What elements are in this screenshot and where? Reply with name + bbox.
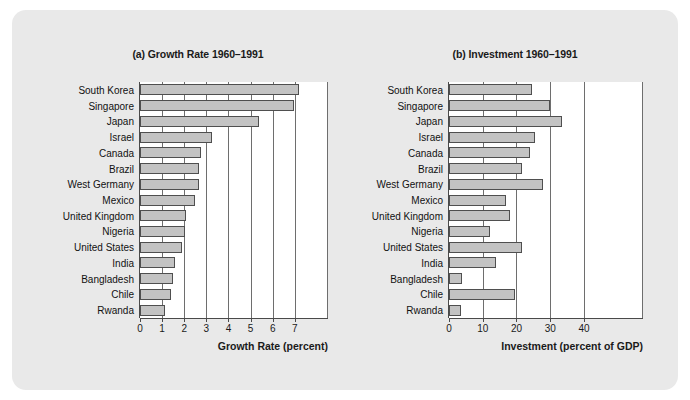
bar xyxy=(449,289,515,300)
x-tick-label: 4 xyxy=(226,323,232,334)
chart-growth-rate: (a) Growth Rate 1960–1991 01234567Growth… xyxy=(20,10,350,390)
x-tick-label: 30 xyxy=(545,323,556,334)
bar xyxy=(449,305,461,316)
x-tick-mark xyxy=(184,318,185,322)
x-tick-mark xyxy=(516,318,517,322)
bar xyxy=(449,242,522,253)
category-label: India xyxy=(112,257,134,268)
x-tick-label: 1 xyxy=(159,323,165,334)
bar xyxy=(140,179,199,190)
category-label: West Germany xyxy=(377,179,444,190)
category-label: Bangladesh xyxy=(390,273,443,284)
category-label: South Korea xyxy=(78,84,134,95)
bar xyxy=(449,163,522,174)
bar xyxy=(140,163,199,174)
bar xyxy=(140,257,175,268)
bar-row xyxy=(140,226,185,237)
category-label: United Kingdom xyxy=(372,210,443,221)
bar xyxy=(140,195,195,206)
x-tick-mark xyxy=(140,318,141,322)
category-label: Chile xyxy=(420,289,443,300)
x-axis-line-investment xyxy=(449,318,643,319)
chart-investment: (b) Investment 1960–1991 010203040Invest… xyxy=(342,10,672,390)
category-label: Mexico xyxy=(411,195,443,206)
bar-row xyxy=(140,210,186,221)
x-tick-mark xyxy=(228,318,229,322)
bar-row xyxy=(449,242,522,253)
gridline xyxy=(273,82,274,318)
x-tick-mark xyxy=(483,318,484,322)
bar-row xyxy=(449,179,543,190)
x-tick-label: 5 xyxy=(248,323,254,334)
x-tick-mark xyxy=(251,318,252,322)
category-label: Nigeria xyxy=(102,226,134,237)
bar xyxy=(140,226,185,237)
x-tick-mark xyxy=(162,318,163,322)
x-tick-label: 0 xyxy=(446,323,452,334)
bar xyxy=(449,273,462,284)
x-tick-mark xyxy=(273,318,274,322)
bar xyxy=(449,147,530,158)
plot-area-investment: 010203040Investment (percent of GDP) xyxy=(448,82,643,318)
x-tick-label: 10 xyxy=(477,323,488,334)
bar-row xyxy=(449,163,522,174)
bar-row xyxy=(140,147,201,158)
bar-row xyxy=(140,116,259,127)
bar-row xyxy=(449,257,496,268)
bar xyxy=(449,226,490,237)
x-tick-label: 3 xyxy=(204,323,210,334)
category-label: South Korea xyxy=(387,84,443,95)
category-label: West Germany xyxy=(68,179,135,190)
bar-row xyxy=(449,84,532,95)
chart-title-growth: (a) Growth Rate 1960–1991 xyxy=(20,48,350,60)
bar xyxy=(449,84,532,95)
bar xyxy=(449,179,543,190)
bar-row xyxy=(449,147,530,158)
category-label: United States xyxy=(383,242,443,253)
bar-row xyxy=(449,116,562,127)
bar-row xyxy=(140,273,173,284)
bar-row xyxy=(140,242,182,253)
category-label: Canada xyxy=(408,147,443,158)
bar-row xyxy=(140,100,294,111)
category-label: Israel xyxy=(110,132,134,143)
bar-row xyxy=(140,163,199,174)
plot-area-growth: 01234567Growth Rate (percent) xyxy=(139,82,328,318)
figure-panel: (a) Growth Rate 1960–1991 01234567Growth… xyxy=(12,10,678,390)
x-tick-label: 0 xyxy=(137,323,143,334)
category-label: United Kingdom xyxy=(63,210,134,221)
x-tick-mark xyxy=(584,318,585,322)
bar xyxy=(140,242,182,253)
category-label: United States xyxy=(74,242,134,253)
bar-row xyxy=(140,195,195,206)
bar xyxy=(140,147,201,158)
bar-row xyxy=(449,195,506,206)
category-label: Japan xyxy=(416,116,443,127)
bar xyxy=(140,84,299,95)
bar-row xyxy=(449,210,510,221)
category-label: Singapore xyxy=(88,100,134,111)
x-tick-label: 20 xyxy=(511,323,522,334)
category-label: Rwanda xyxy=(406,305,443,316)
bar xyxy=(140,210,186,221)
bar-row xyxy=(140,132,212,143)
bar-row xyxy=(449,273,462,284)
x-axis-label: Investment (percent of GDP) xyxy=(501,340,643,352)
bar-row xyxy=(140,179,199,190)
bar xyxy=(140,289,171,300)
bar xyxy=(449,257,496,268)
bar xyxy=(449,100,550,111)
x-tick-mark xyxy=(206,318,207,322)
bar-row xyxy=(140,84,299,95)
x-tick-label: 7 xyxy=(292,323,298,334)
category-label: Canada xyxy=(99,147,134,158)
plot-right-border xyxy=(642,82,643,318)
category-label: Singapore xyxy=(397,100,443,111)
bar-row xyxy=(449,226,490,237)
plot-right-border xyxy=(327,82,328,318)
bar-row xyxy=(449,132,535,143)
bar-row xyxy=(140,305,165,316)
x-tick-label: 40 xyxy=(578,323,589,334)
bar xyxy=(140,273,173,284)
x-tick-mark xyxy=(550,318,551,322)
